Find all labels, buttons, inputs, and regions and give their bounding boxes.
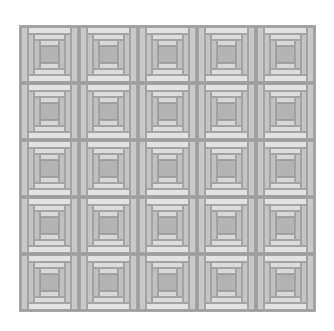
block-center [99, 160, 118, 178]
log-strip-bottom [217, 177, 236, 183]
log-strip-bottom [211, 126, 242, 132]
log-strip-bottom [205, 75, 248, 82]
quilt-block [197, 254, 256, 311]
log-strip-right [65, 205, 71, 246]
log-strip-right [242, 34, 248, 75]
quilt-block [138, 140, 197, 197]
log-strip-right [183, 262, 189, 303]
log-strip-bottom [152, 126, 183, 132]
log-strip-left [139, 84, 146, 139]
log-strip-right [301, 91, 307, 132]
log-strip-bottom [217, 291, 236, 297]
log-strip-right [71, 27, 78, 82]
log-strip-right [242, 262, 248, 303]
quilt-block [79, 197, 138, 254]
block-center [217, 160, 236, 178]
log-strip-right [71, 198, 78, 253]
block-center [276, 46, 295, 64]
log-strip-top [28, 255, 71, 262]
log-strip-bottom [158, 63, 177, 69]
log-strip-bottom [152, 183, 183, 189]
log-strip-right [242, 148, 248, 189]
block-center [158, 103, 177, 121]
log-strip-right [301, 205, 307, 246]
log-strip-left [80, 198, 87, 253]
log-strip-top [87, 27, 130, 34]
quilt-block [20, 83, 79, 140]
quilt-block [79, 140, 138, 197]
block-center [276, 217, 295, 235]
log-strip-bottom [152, 240, 183, 246]
log-strip-bottom [158, 177, 177, 183]
log-strip-bottom [34, 183, 65, 189]
log-strip-right [177, 97, 183, 126]
log-strip-right [248, 198, 255, 253]
block-center [40, 103, 59, 121]
log-strip-bottom [264, 132, 307, 139]
log-strip-bottom [264, 75, 307, 82]
log-strip-bottom [28, 75, 71, 82]
log-strip-right [236, 154, 242, 183]
log-strip-bottom [99, 234, 118, 240]
log-strip-left [139, 255, 146, 310]
log-strip-bottom [276, 120, 295, 126]
log-strip-bottom [270, 183, 301, 189]
log-strip-right [307, 255, 314, 310]
log-strip-top [87, 255, 130, 262]
log-strip-right [65, 262, 71, 303]
log-strip-left [21, 141, 28, 196]
log-strip-bottom [99, 120, 118, 126]
log-strip-right [189, 198, 196, 253]
log-strip-right [130, 198, 137, 253]
block-center [158, 217, 177, 235]
log-strip-right [118, 268, 124, 297]
log-strip-right [236, 211, 242, 240]
log-strip-right [71, 84, 78, 139]
log-strip-right [248, 141, 255, 196]
log-strip-bottom [34, 240, 65, 246]
quilt-block [197, 26, 256, 83]
log-strip-top [146, 141, 189, 148]
log-strip-top [87, 198, 130, 205]
log-strip-top [87, 141, 130, 148]
log-strip-right [118, 211, 124, 240]
log-strip-right [124, 148, 130, 189]
log-strip-right [183, 205, 189, 246]
log-strip-right [183, 148, 189, 189]
block-center [99, 46, 118, 64]
log-strip-right [248, 84, 255, 139]
log-strip-bottom [270, 126, 301, 132]
log-strip-left [21, 255, 28, 310]
log-strip-right [307, 141, 314, 196]
log-strip-bottom [276, 63, 295, 69]
log-strip-bottom [152, 297, 183, 303]
log-strip-bottom [264, 246, 307, 253]
log-strip-right [59, 154, 65, 183]
log-strip-bottom [152, 69, 183, 75]
log-strip-right [248, 27, 255, 82]
log-strip-left [139, 27, 146, 82]
log-strip-right [295, 268, 301, 297]
log-strip-bottom [87, 246, 130, 253]
log-strip-right [65, 34, 71, 75]
log-strip-bottom [276, 234, 295, 240]
quilt-block [256, 26, 315, 83]
quilt-block [20, 140, 79, 197]
log-strip-left [80, 84, 87, 139]
log-strip-left [139, 198, 146, 253]
log-strip-top [205, 255, 248, 262]
log-strip-right [118, 97, 124, 126]
log-strip-left [80, 27, 87, 82]
log-strip-bottom [158, 291, 177, 297]
log-strip-left [21, 84, 28, 139]
log-strip-right [59, 40, 65, 69]
log-strip-bottom [99, 291, 118, 297]
quilt-block [20, 197, 79, 254]
log-strip-top [146, 255, 189, 262]
log-strip-right [177, 40, 183, 69]
log-strip-top [205, 84, 248, 91]
log-strip-top [146, 27, 189, 34]
log-strip-right [71, 255, 78, 310]
block-center [40, 274, 59, 292]
log-strip-bottom [40, 291, 59, 297]
